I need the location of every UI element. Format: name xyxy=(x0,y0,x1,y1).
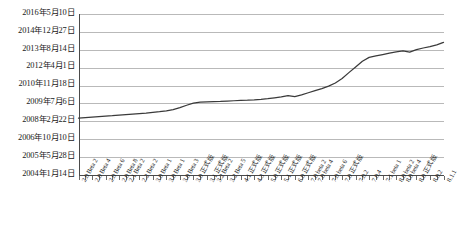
series-polyline xyxy=(79,42,444,118)
